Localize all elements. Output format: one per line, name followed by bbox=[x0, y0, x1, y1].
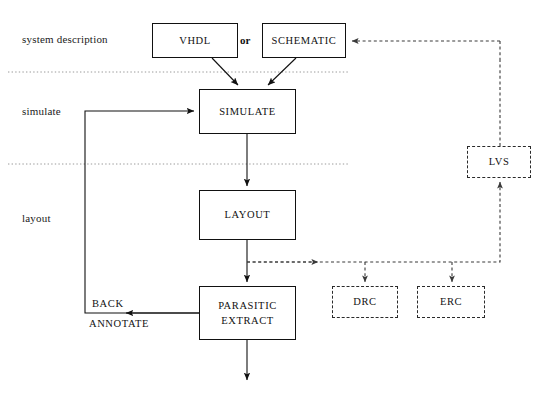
dashed-verification-arrows bbox=[247, 41, 500, 282]
box-simulate[interactable]: SIMULATE bbox=[199, 89, 296, 134]
box-parasitic-extract-label-line1: PARASITIC bbox=[218, 298, 277, 313]
box-lvs-label: LVS bbox=[489, 154, 510, 169]
box-layout-label: LAYOUT bbox=[225, 207, 271, 222]
box-layout[interactable]: LAYOUT bbox=[199, 190, 296, 240]
diagram-canvas: system description simulate layout VHDL … bbox=[0, 0, 554, 406]
connector-label-annotate: ANNOTATE bbox=[89, 318, 149, 329]
box-erc[interactable]: ERC bbox=[417, 286, 485, 318]
box-lvs[interactable]: LVS bbox=[467, 146, 531, 178]
stage-label-layout: layout bbox=[22, 212, 51, 224]
arrow-back-annotate-feedback bbox=[85, 111, 199, 313]
box-parasitic-extract[interactable]: PARASITIC EXTRACT bbox=[199, 286, 296, 340]
box-vhdl[interactable]: VHDL bbox=[152, 23, 238, 58]
stage-label-simulate: simulate bbox=[22, 105, 61, 117]
box-drc-label: DRC bbox=[353, 294, 376, 309]
box-schematic[interactable]: SCHEMATIC bbox=[262, 23, 346, 58]
arrow-vhdl-to-simulate bbox=[212, 58, 238, 85]
box-erc-label: ERC bbox=[440, 294, 462, 309]
box-drc[interactable]: DRC bbox=[332, 286, 398, 318]
connector-label-or: or bbox=[240, 34, 250, 46]
box-parasitic-extract-label-line2: EXTRACT bbox=[221, 313, 274, 328]
connector-label-back: BACK bbox=[92, 298, 124, 309]
stage-dividers bbox=[8, 72, 348, 164]
box-schematic-label: SCHEMATIC bbox=[272, 33, 337, 48]
box-simulate-label: SIMULATE bbox=[219, 104, 276, 119]
box-vhdl-label: VHDL bbox=[179, 33, 211, 48]
stage-label-system-description: system description bbox=[22, 33, 108, 45]
